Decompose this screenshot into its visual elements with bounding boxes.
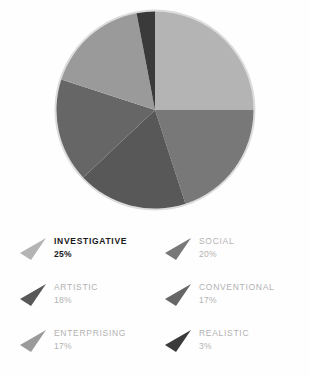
legend-text-social: SOCIAL 20% [199, 235, 234, 261]
legend-value: 3% [199, 340, 249, 353]
wedge-icon [163, 236, 193, 262]
wedge-icon [163, 328, 193, 354]
legend-label: SOCIAL [199, 235, 234, 247]
legend-label: CONVENTIONAL [199, 281, 274, 293]
legend-item-artistic[interactable]: ARTISTIC 18% [18, 278, 163, 324]
pie-chart-area [0, 0, 310, 228]
legend-column-right: SOCIAL 20% CONVENTIONAL 17% REALISTI [163, 232, 308, 370]
pie-chart-widget: INVESTIGATIVE 25% ARTISTIC 18% ENTER [0, 0, 310, 376]
pie-chart-svg[interactable] [53, 8, 257, 212]
legend-value: 17% [54, 340, 126, 353]
legend-item-realistic[interactable]: REALISTIC 3% [163, 324, 308, 370]
wedge-icon [163, 282, 193, 308]
legend-value: 18% [54, 294, 98, 307]
legend-item-enterprising[interactable]: ENTERPRISING 17% [18, 324, 163, 370]
legend-text-realistic: REALISTIC 3% [199, 327, 249, 353]
legend-label: INVESTIGATIVE [54, 235, 127, 247]
legend-text-artistic: ARTISTIC 18% [54, 281, 98, 307]
legend-text-conventional: CONVENTIONAL 17% [199, 281, 274, 307]
legend-text-enterprising: ENTERPRISING 17% [54, 327, 126, 353]
legend-text-investigative: INVESTIGATIVE 25% [54, 235, 127, 261]
legend-label: ARTISTIC [54, 281, 98, 293]
wedge-icon [18, 282, 48, 308]
legend-item-social[interactable]: SOCIAL 20% [163, 232, 308, 278]
legend-label: REALISTIC [199, 327, 249, 339]
legend-label: ENTERPRISING [54, 327, 126, 339]
pie-slices-group [56, 11, 253, 208]
legend-value: 25% [54, 248, 127, 261]
legend-value: 20% [199, 248, 234, 261]
legend-column-left: INVESTIGATIVE 25% ARTISTIC 18% ENTER [18, 232, 163, 370]
legend: INVESTIGATIVE 25% ARTISTIC 18% ENTER [0, 232, 310, 376]
legend-item-investigative[interactable]: INVESTIGATIVE 25% [18, 232, 163, 278]
wedge-icon [18, 236, 48, 262]
pie-slice-investigative[interactable] [155, 12, 254, 111]
legend-value: 17% [199, 294, 274, 307]
legend-item-conventional[interactable]: CONVENTIONAL 17% [163, 278, 308, 324]
wedge-icon [18, 328, 48, 354]
